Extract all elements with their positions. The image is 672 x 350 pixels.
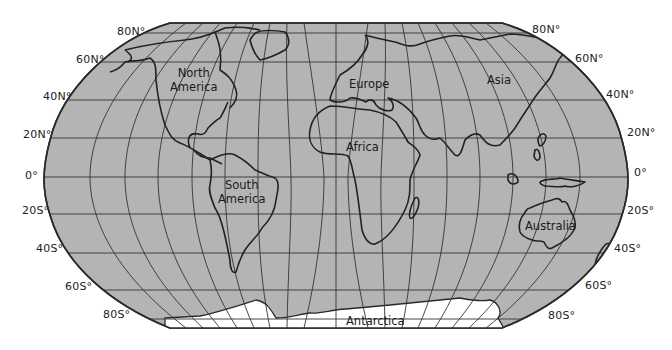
lat-label-right-80n: 80N°: [532, 23, 561, 36]
lat-label-left-0: 0°: [25, 169, 38, 182]
region-label-australia: Australia: [525, 219, 576, 233]
lat-label-right-40s: 40S°: [614, 242, 641, 255]
lat-label-left-20s: 20S°: [22, 204, 49, 217]
lat-label-left-40s: 40S°: [36, 242, 63, 255]
lat-label-left-20n: 20N°: [23, 128, 52, 141]
lat-label-right-60n: 60N°: [575, 52, 604, 65]
region-label-antarctica: Antarctica: [346, 314, 405, 328]
lat-label-left-60s: 60S°: [65, 280, 92, 293]
lat-label-right-0: 0°: [634, 166, 647, 179]
region-label-asia: Asia: [487, 73, 511, 87]
lat-label-right-80s: 80S°: [548, 309, 575, 322]
lat-label-left-40n: 40N°: [43, 90, 72, 103]
lat-label-left-60n: 60N°: [76, 53, 105, 66]
lat-label-right-40n: 40N°: [606, 88, 635, 101]
region-label-europe: Europe: [349, 77, 389, 91]
region-label-north-america: North America: [170, 66, 217, 94]
region-label-africa: Africa: [346, 140, 379, 154]
region-label-south-america: South America: [218, 178, 265, 206]
lat-label-right-60s: 60S°: [585, 279, 612, 292]
lat-label-right-20n: 20N°: [627, 126, 656, 139]
lat-label-left-80n: 80N°: [117, 25, 146, 38]
lat-label-left-80s: 80S°: [103, 308, 130, 321]
lat-label-right-20s: 20S°: [627, 204, 654, 217]
